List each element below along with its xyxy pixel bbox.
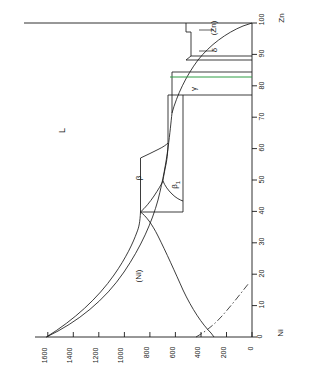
axis-name-zn: Zn <box>278 13 286 22</box>
beta-upper-right-boundary <box>141 143 169 158</box>
temp-tick-600: 600 <box>169 347 176 359</box>
ni-solvus-curve <box>141 212 215 337</box>
axis-name-ni: Ni <box>277 329 285 337</box>
temp-tick-800: 800 <box>143 347 150 359</box>
comp-tick-10: 10 <box>258 301 265 309</box>
phase-label-beta1-greek: β <box>170 184 179 189</box>
beta-left-boundary <box>141 181 164 212</box>
comp-tick-20: 20 <box>258 270 265 278</box>
phase-label-ni-solid-solution: (Ni) <box>135 270 143 283</box>
temp-tick-200: 200 <box>220 347 227 359</box>
temperature-ticks <box>48 332 252 337</box>
temp-tick-1400: 1400 <box>66 348 73 364</box>
phase-label-zn-solid-solution: (Zn) <box>210 21 218 36</box>
solidus-ni-curve <box>46 212 140 337</box>
liquidus-curve <box>46 23 252 337</box>
phase-label-gamma: γ <box>190 87 198 91</box>
comp-tick-50: 50 <box>258 176 265 184</box>
comp-tick-60: 60 <box>258 144 265 152</box>
composition-ticks <box>252 23 257 337</box>
phase-diagram-figure: 0 10 20 30 40 50 60 70 80 90 100 Ni Zn 0… <box>0 0 309 391</box>
comp-tick-40: 40 <box>258 207 265 215</box>
phase-label-beta: β <box>135 176 143 181</box>
phase-label-liquid: L <box>58 128 67 133</box>
comp-tick-100: 100 <box>258 14 265 26</box>
delta-corner-connector <box>186 56 191 60</box>
curie-temperature-line <box>196 283 249 337</box>
phase-label-delta: δ <box>211 48 219 52</box>
temp-tick-1200: 1200 <box>92 348 99 364</box>
comp-tick-0: 0 <box>256 335 263 339</box>
comp-tick-90: 90 <box>258 50 265 58</box>
temp-tick-1600: 1600 <box>41 348 48 364</box>
comp-tick-80: 80 <box>258 82 265 90</box>
phase-label-beta1-subscript: 1 <box>175 181 181 184</box>
comp-tick-30: 30 <box>258 238 265 246</box>
temp-tick-400: 400 <box>194 347 201 359</box>
phase-diagram-svg <box>0 0 309 391</box>
phase-label-beta1: β1 <box>171 181 181 189</box>
comp-tick-70: 70 <box>258 113 265 121</box>
temp-tick-1000: 1000 <box>117 348 124 364</box>
temp-tick-0: 0 <box>247 347 254 351</box>
